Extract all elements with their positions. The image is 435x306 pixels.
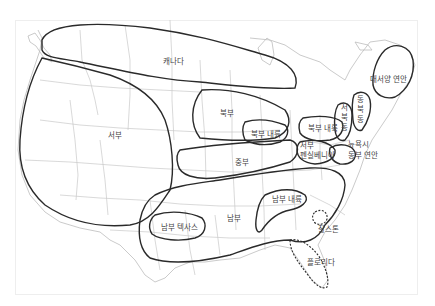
label-canada: 캐나다 — [163, 58, 184, 66]
label-central: 중부 — [235, 159, 249, 167]
label-north-inland-east: 북부 내륙 — [308, 125, 338, 133]
label-south: 남부 — [227, 215, 241, 223]
label-north-inland-west: 북부 내륙 — [251, 131, 281, 139]
label-western-new-england: 서북동 — [340, 103, 348, 133]
region-south-boundary — [139, 168, 345, 262]
label-western-pennsylvania-line2: 펜실베니아 — [300, 152, 335, 160]
label-east-coast: 동부 연안 — [348, 152, 378, 160]
label-florida: 플로리다 — [307, 259, 335, 267]
label-charleston: 찰스톤 — [318, 226, 339, 234]
label-eastern-new-england: 동북동 — [356, 95, 364, 125]
label-north: 북부 — [220, 110, 234, 118]
label-western-pennsylvania-line1: 서부 — [300, 142, 314, 150]
region-west-boundary — [20, 58, 173, 226]
label-west: 서부 — [108, 132, 122, 140]
label-south-inland: 남부 내륙 — [272, 196, 302, 204]
label-new-york-city: 뉴욕시 — [348, 141, 369, 149]
region-atlantic-coast-boundary — [373, 46, 413, 98]
region-charleston-boundary — [313, 210, 328, 224]
label-atlantic-coast: 대서양 연안 — [370, 76, 407, 84]
label-south-texas: 남부 텍사스 — [161, 224, 198, 232]
